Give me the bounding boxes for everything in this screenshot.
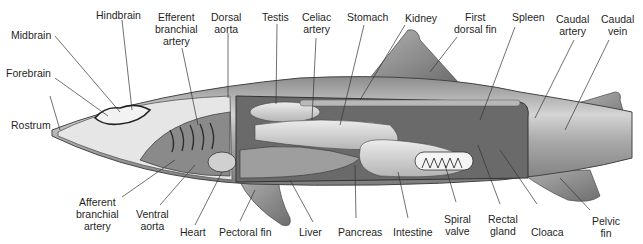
label-cloaca: Cloaca [531, 226, 564, 238]
label-kidney: Kidney [405, 12, 437, 24]
label-celiac-artery: Celiac artery [302, 11, 331, 35]
label-stomach: Stomach [347, 11, 388, 23]
label-ventral-aorta: Ventral aorta [136, 208, 169, 232]
label-midbrain: Midbrain [11, 29, 51, 41]
spiral-valve-shape [415, 152, 473, 170]
label-pectoral-fin: Pectoral fin [219, 226, 272, 238]
label-caudal-artery: Caudal artery [556, 13, 589, 37]
label-rostrum: Rostrum [11, 119, 51, 131]
label-testis: Testis [262, 11, 289, 23]
label-rectal-gland: Rectal gland [488, 213, 518, 237]
label-forebrain: Forebrain [6, 67, 51, 79]
label-hindbrain: Hindbrain [96, 9, 141, 21]
label-efferent-branchial-artery: Efferent branchial artery [155, 11, 198, 47]
label-caudal-vein: Caudal vein [601, 13, 634, 37]
label-dorsal-aorta: Dorsal aorta [211, 11, 241, 35]
label-pancreas: Pancreas [338, 226, 382, 238]
first-dorsal-fin-shape [370, 30, 458, 82]
label-pelvic-fin: Pelvic fin [592, 215, 620, 239]
label-first-dorsal-fin: First dorsal fin [454, 11, 497, 35]
label-afferent-branchial-artery: Afferent branchial artery [76, 196, 119, 232]
label-spiral-valve: Spiral valve [444, 213, 471, 237]
label-spleen: Spleen [512, 11, 545, 23]
label-liver: Liver [299, 226, 322, 238]
label-heart: Heart [180, 226, 206, 238]
label-intestine: Intestine [393, 226, 433, 238]
heart [208, 152, 236, 172]
